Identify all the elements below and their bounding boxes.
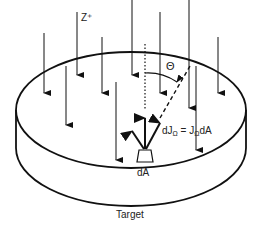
flux-formula-rhs: dA <box>199 125 212 136</box>
emitted-flux-arrows <box>132 118 160 149</box>
theta-label: Θ <box>166 60 175 72</box>
emission-direction-line <box>160 66 190 118</box>
area-element-box <box>137 150 153 162</box>
target-label: Target <box>116 209 144 220</box>
emitted-arrow-right <box>146 123 160 149</box>
flux-formula-lhs: dJ <box>162 125 173 136</box>
emitted-arrow-left <box>132 131 144 149</box>
incident-ion-arrows <box>44 0 218 160</box>
sputtering-diagram: Z⁺ Θ dA dJΩ = JΩdA Target <box>0 0 259 231</box>
flux-formula-eq: = J <box>178 125 194 136</box>
target-bottom-edge <box>16 148 246 206</box>
area-element-label: dA <box>137 167 150 178</box>
flux-formula: dJΩ = JΩdA <box>162 125 212 137</box>
target-top-ellipse <box>16 52 246 168</box>
theta-arc-arrow <box>145 73 177 82</box>
z-axis-label: Z⁺ <box>81 12 92 23</box>
